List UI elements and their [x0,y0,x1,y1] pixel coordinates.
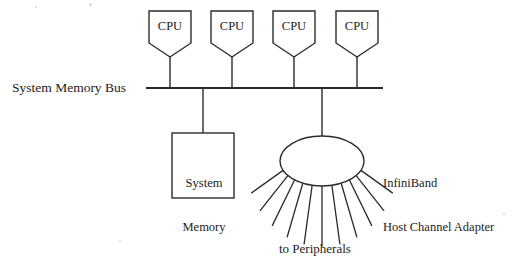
cpu-label-3: CPU [274,19,314,34]
host-channel-adapter-label: InfiniBand Host Channel Adapter [383,146,494,264]
peripheral-ray [251,170,283,193]
peripheral-ray [272,180,294,226]
system-memory-label-line1: System [172,176,236,191]
cpu-shape-4 [336,11,378,57]
scan-speck [89,3,92,6]
cpu-label-1: CPU [150,19,190,34]
hca-ellipse [280,136,364,186]
scan-speck [503,213,505,215]
cpu-shape-3 [273,11,315,57]
peripheral-ray [260,176,288,211]
cpu-shape-1 [149,11,191,57]
cpu-shape-2 [211,11,253,57]
to-peripherals-label: to Peripherals [279,241,351,256]
peripheral-ray [349,180,371,226]
peripheral-ray [356,176,384,211]
peripheral-ray [304,185,312,244]
scan-speck [35,6,37,8]
scan-speck [119,240,121,242]
cpu-label-4: CPU [337,19,377,34]
diagram-canvas: CPU CPU CPU CPU System Memory Bus System… [0,0,520,270]
system-memory-label-line2: Memory [172,220,236,235]
hca-label-line1: InfiniBand [383,176,494,191]
hca-label-line2: Host Channel Adapter [383,220,494,235]
cpu-label-2: CPU [212,19,252,34]
peripheral-ray [332,185,340,244]
system-memory-label: System Memory [172,146,236,264]
host-channel-adapter-node[interactable] [280,88,364,186]
system-memory-bus-label: System Memory Bus [12,80,126,96]
